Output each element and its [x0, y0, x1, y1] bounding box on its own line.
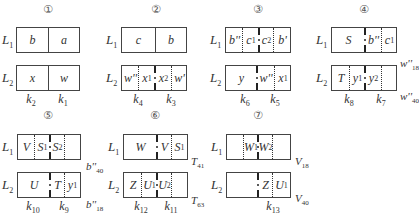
cell: W2: [258, 135, 273, 159]
side-label: w''40: [400, 90, 419, 105]
row-label-l1: L1: [211, 139, 222, 157]
cell: c2: [259, 28, 274, 52]
row-label-l2: L2: [210, 70, 221, 88]
k-label: k7: [376, 92, 385, 108]
cell: a: [48, 28, 80, 52]
panel-number: ⑥: [150, 109, 160, 122]
side-label: b''40: [86, 160, 103, 175]
row-label-l1: L1: [2, 139, 13, 157]
cell: [172, 173, 187, 197]
side-label: w''18: [400, 57, 419, 72]
k-label: k4: [133, 92, 142, 108]
cell: w: [48, 66, 80, 90]
cell: x1: [275, 66, 291, 90]
cell: b: [17, 28, 48, 52]
track-l2: Z U1: [226, 172, 291, 198]
row-label-l2: L2: [108, 177, 119, 195]
k-label: k11: [164, 199, 177, 215]
side-label: V40: [295, 192, 309, 207]
k-label: k1: [58, 92, 67, 108]
k-label: k9: [59, 199, 68, 215]
cell: c: [122, 28, 155, 52]
cell: y: [226, 66, 257, 90]
cell: b'': [365, 28, 382, 52]
cell: T: [50, 173, 65, 197]
side-label: T63: [191, 194, 204, 209]
k-label: k5: [270, 92, 279, 108]
row-label-l2: L2: [316, 70, 327, 88]
row-label-l1: L1: [2, 32, 13, 50]
side-label: b''18: [86, 198, 103, 213]
panel-number: ①: [43, 3, 53, 16]
cell: V: [157, 135, 172, 159]
cell: S: [332, 28, 365, 52]
cell: x2: [155, 66, 172, 90]
cell: U2: [157, 173, 172, 197]
panel-number: ③: [253, 3, 263, 16]
cell: S2: [50, 135, 65, 159]
side-label: T41: [191, 155, 204, 170]
track-l2: y w'' x1: [225, 65, 291, 91]
k-label: k6: [240, 92, 249, 108]
row-label-l2: L2: [2, 70, 13, 88]
cell: U1: [142, 173, 157, 197]
row-label-l2: L2: [2, 177, 13, 195]
track-l2: Z U1 U2: [123, 172, 188, 198]
track-l2: T y1 y2: [331, 65, 397, 91]
cell: c1: [382, 28, 397, 52]
row-label-l1: L1: [210, 32, 221, 50]
row-label-l2: L2: [106, 70, 117, 88]
panel-number: ⑦: [253, 109, 263, 122]
cell: x1: [139, 66, 155, 90]
cell: U1: [273, 173, 290, 197]
row-label-l2: L2: [211, 177, 222, 195]
k-label: k2: [26, 92, 35, 108]
cell: S1: [172, 135, 187, 159]
cell: Z: [124, 173, 142, 197]
track-l1: b'' c1 c2 b': [225, 27, 291, 53]
track-l1: V S1 S2: [17, 134, 81, 160]
cell: c1: [243, 28, 259, 52]
cell: y2: [365, 66, 382, 90]
cell: y1: [350, 66, 365, 90]
cell: [273, 135, 290, 159]
cell: Z: [258, 173, 273, 197]
k-label: k3: [166, 92, 175, 108]
cell: [382, 66, 397, 90]
cell: b'': [226, 28, 243, 52]
cell: T: [332, 66, 350, 90]
track-l2: w'' x1 x2 w': [121, 65, 187, 91]
cell: W: [124, 135, 157, 159]
cell: [227, 135, 244, 159]
track-l2: U T y1: [17, 172, 81, 198]
k-label: k8: [344, 92, 353, 108]
panel-number: ⑤: [43, 109, 53, 122]
cell: y1: [65, 173, 80, 197]
side-label: V18: [295, 155, 309, 170]
cell: V: [18, 135, 35, 159]
track-l1: c b: [121, 27, 187, 53]
track-l1: b a: [16, 27, 80, 53]
panel-number: ②: [151, 3, 161, 16]
cell: w'': [257, 66, 275, 90]
track-l1: W1 W2: [226, 134, 291, 160]
row-label-l1: L1: [108, 139, 119, 157]
row-label-l1: L1: [316, 32, 327, 50]
k-label: k13: [266, 199, 279, 215]
track-l1: W V S1: [123, 134, 188, 160]
cell: b': [274, 28, 291, 52]
panel-number: ④: [359, 3, 369, 16]
cell: U: [18, 173, 50, 197]
k-label: k10: [26, 199, 39, 215]
cell: [227, 173, 258, 197]
cell: b: [155, 28, 187, 52]
cell: x: [17, 66, 48, 90]
track-l2: x w: [16, 65, 80, 91]
row-label-l1: L1: [106, 32, 117, 50]
cell: [65, 135, 80, 159]
k-label: k12: [134, 199, 147, 215]
cell: w'': [122, 66, 139, 90]
cell: S1: [35, 135, 50, 159]
cell: w': [172, 66, 187, 90]
track-l1: S b'' c1: [331, 27, 397, 53]
